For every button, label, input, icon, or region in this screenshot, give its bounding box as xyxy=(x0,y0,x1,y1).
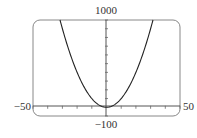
y-max-label: 1000 xyxy=(95,4,118,16)
y-min-label: −100 xyxy=(95,118,118,130)
x-max-label: 50 xyxy=(183,100,195,112)
parabola-chart: 1000 −100 −50 50 xyxy=(0,0,197,138)
x-min-label: −50 xyxy=(14,100,32,112)
